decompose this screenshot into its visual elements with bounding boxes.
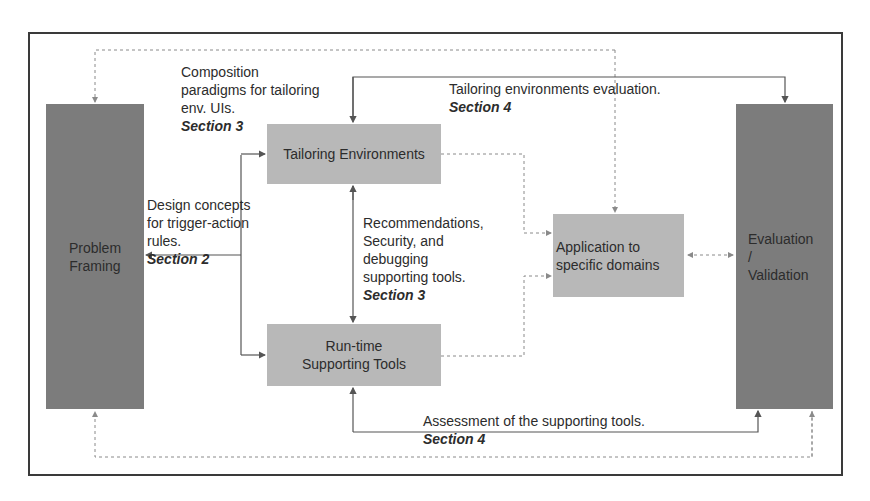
design-concepts-section: Section 2 bbox=[147, 250, 251, 268]
assessment-annotation: Assessment of the supporting tools. Sect… bbox=[423, 412, 645, 448]
design-concepts-text: Design concepts for trigger-action rules… bbox=[147, 196, 251, 250]
evaluation-validation-box: Evaluation / Validation bbox=[736, 104, 833, 409]
composition-section: Section 3 bbox=[181, 117, 320, 135]
composition-text: Composition paradigms for tailoring env.… bbox=[181, 63, 320, 117]
problem-framing-box: Problem Framing bbox=[46, 104, 144, 409]
tailoring-eval-section: Section 4 bbox=[449, 98, 661, 116]
recommendations-annotation: Recommendations, Security, and debugging… bbox=[363, 214, 484, 304]
tailoring-eval-annotation: Tailoring environments evaluation. Secti… bbox=[449, 80, 661, 116]
tailoring-eval-text: Tailoring environments evaluation. bbox=[449, 80, 661, 98]
runtime-supporting-tools-box: Run-time Supporting Tools bbox=[267, 324, 441, 386]
application-domains-box: Application to specific domains bbox=[553, 214, 684, 297]
composition-annotation: Composition paradigms for tailoring env.… bbox=[181, 63, 320, 135]
recommendations-text: Recommendations, Security, and debugging… bbox=[363, 214, 484, 286]
assessment-section: Section 4 bbox=[423, 430, 645, 448]
design-concepts-annotation: Design concepts for trigger-action rules… bbox=[147, 196, 251, 268]
assessment-text: Assessment of the supporting tools. bbox=[423, 412, 645, 430]
recommendations-section: Section 3 bbox=[363, 286, 484, 304]
